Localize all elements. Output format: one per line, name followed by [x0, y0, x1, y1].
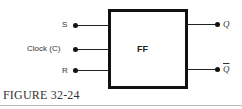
- input-label-clock: Clock (C): [27, 44, 60, 54]
- block-label: FF: [137, 44, 148, 54]
- output-terminal-q-bar: [215, 67, 220, 72]
- output-wire-q: [187, 24, 217, 25]
- flip-flop-block: [108, 9, 188, 89]
- output-label-q-bar: Q: [223, 64, 230, 74]
- figure-caption: FIGURE 32-24: [3, 88, 80, 103]
- input-wire-r: [76, 70, 109, 71]
- output-wire-q-bar: [187, 69, 217, 70]
- output-terminal-q: [215, 22, 220, 27]
- input-label-s: S: [62, 20, 67, 30]
- output-label-q: Q: [223, 19, 230, 29]
- input-wire-s: [76, 25, 109, 26]
- input-label-r: R: [62, 66, 68, 76]
- input-wire-clock: [76, 49, 109, 50]
- caption-rule: [0, 105, 242, 106]
